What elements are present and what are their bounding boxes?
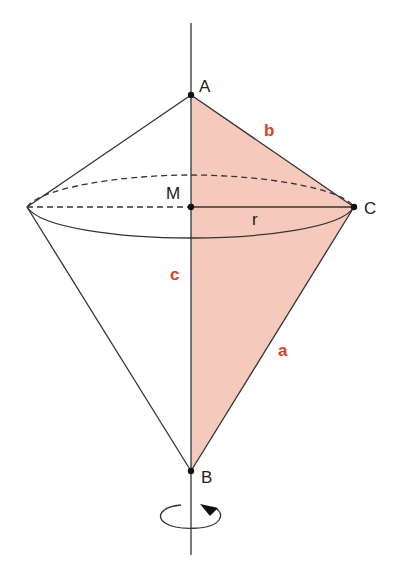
point-a-dot [188,92,194,98]
label-b-point: B [201,468,212,487]
diagram-canvas: A M C B r b c a [0,0,399,565]
label-r-segment: r [252,210,258,229]
label-a-segment: a [278,341,288,360]
label-m-point: M [166,184,180,203]
label-a-point: A [199,77,211,96]
double-cone-diagram: A M C B r b c a [0,0,399,565]
label-c-point: C [364,199,376,218]
label-b-segment: b [264,121,274,140]
label-c-segment: c [170,265,179,284]
point-b-dot [188,468,194,474]
lower-left-edge [27,207,191,471]
point-c-dot [351,204,357,210]
point-m-dot [188,204,194,210]
